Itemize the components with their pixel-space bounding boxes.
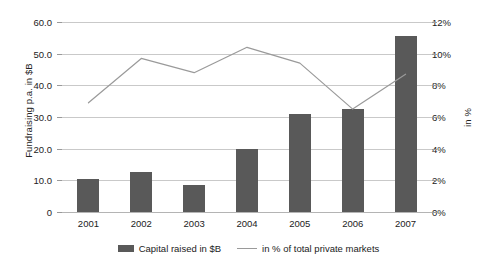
y-axis-left-tick-label: 20.0 — [4, 143, 52, 154]
bar — [236, 149, 258, 212]
x-axis-tick-label: 2005 — [289, 218, 310, 229]
y-axis-left-tick-mark — [57, 212, 62, 213]
legend-item-line: in % of total private markets — [237, 243, 379, 254]
gridline — [62, 54, 432, 55]
gridline — [62, 22, 432, 23]
legend-bar-swatch-icon — [118, 245, 134, 252]
chart-container: Fundraising p.a. in $B in % 010.020.030.… — [0, 0, 497, 268]
bar — [130, 172, 152, 212]
x-axis-tick-label: 2007 — [395, 218, 416, 229]
x-axis-tick-label: 2003 — [184, 218, 205, 229]
bar — [183, 185, 205, 212]
y-axis-left-tick-mark — [57, 85, 62, 86]
gridline — [62, 212, 432, 213]
y-axis-right-tick-label: 12% — [432, 17, 472, 28]
y-axis-left-tick-mark — [57, 149, 62, 150]
y-axis-right-tick-mark — [432, 212, 437, 213]
y-axis-right-tick-label: 0% — [432, 207, 472, 218]
y-axis-left-tick-label: 50.0 — [4, 48, 52, 59]
bar — [342, 109, 364, 212]
y-axis-right-tick-label: 2% — [432, 175, 472, 186]
chart-legend: Capital raised in $B in % of total priva… — [0, 243, 497, 254]
y-axis-left-tick-label: 40.0 — [4, 80, 52, 91]
y-axis-right-tick-mark — [432, 54, 437, 55]
y-axis-left-tick-label: 0 — [4, 207, 52, 218]
y-axis-right-tick-mark — [432, 22, 437, 23]
x-axis-tick-label: 2001 — [78, 218, 99, 229]
y-axis-left-tick-mark — [57, 117, 62, 118]
x-axis-tick-label: 2002 — [131, 218, 152, 229]
gridline — [62, 117, 432, 118]
y-axis-right-tick-label: 10% — [432, 48, 472, 59]
y-axis-left-tick-label: 10.0 — [4, 175, 52, 186]
legend-item-bar: Capital raised in $B — [118, 243, 221, 254]
gridline — [62, 85, 432, 86]
x-axis-tick-label: 2006 — [342, 218, 363, 229]
bar — [395, 36, 417, 212]
y-axis-left-tick-label: 60.0 — [4, 17, 52, 28]
y-axis-right-tick-label: 8% — [432, 80, 472, 91]
y-axis-right-tick-mark — [432, 149, 437, 150]
y-axis-left-tick-mark — [57, 22, 62, 23]
x-axis-tick-label: 2004 — [236, 218, 257, 229]
y-axis-right-tick-mark — [432, 85, 437, 86]
y-axis-left-tick-mark — [57, 180, 62, 181]
y-axis-right-tick-mark — [432, 117, 437, 118]
bar — [289, 114, 311, 212]
y-axis-right-tick-label: 4% — [432, 143, 472, 154]
bar — [77, 179, 99, 212]
line-path — [88, 47, 405, 109]
legend-line-swatch-icon — [237, 248, 257, 249]
legend-bar-label: Capital raised in $B — [139, 243, 221, 254]
plot-area — [62, 22, 432, 212]
y-axis-left-tick-label: 30.0 — [4, 112, 52, 123]
y-axis-right-tick-mark — [432, 180, 437, 181]
y-axis-right-tick-label: 6% — [432, 112, 472, 123]
legend-line-label: in % of total private markets — [262, 243, 379, 254]
y-axis-left-tick-mark — [57, 54, 62, 55]
